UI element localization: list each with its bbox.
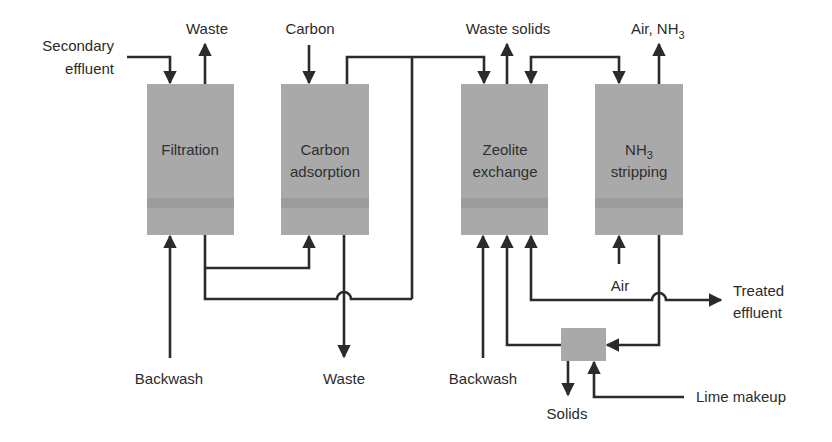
- treated-effluent-arrow: [600, 293, 721, 300]
- nh3-label-line2: stripping: [611, 163, 668, 180]
- air-in-label: Air: [611, 277, 629, 294]
- effluent-recycle-arrow: [531, 236, 600, 300]
- unit-filtration: Filtration: [147, 84, 234, 235]
- waste-solids-label: Waste solids: [466, 20, 550, 37]
- carbon-label-line2: adsorption: [290, 163, 360, 180]
- treated-effluent-label-line1: Treated: [733, 282, 784, 299]
- solids-label: Solids: [547, 405, 588, 422]
- lime-return-arrow: [507, 236, 561, 345]
- secondary-effluent-arrow: [127, 57, 170, 83]
- process-flow-diagram: Filtration Carbon adsorption Zeolite exc…: [0, 0, 832, 442]
- unit-carbon-adsorption: Carbon adsorption: [281, 84, 369, 235]
- treated-effluent-label-line2: effluent: [733, 304, 783, 321]
- carbon-to-zeolite-line: [347, 57, 484, 84]
- backwash-filtration-label: Backwash: [135, 370, 203, 387]
- unit-lime-recalcination: [561, 328, 606, 361]
- carbon-feed-label: Carbon: [285, 20, 334, 37]
- lime-makeup-label: Lime makeup: [696, 388, 786, 405]
- secondary-effluent-label-line2: effluent: [65, 60, 115, 77]
- filtration-to-carbon-arrow: [205, 236, 309, 268]
- filtration-label: Filtration: [161, 141, 219, 158]
- unit-zeolite-exchange: Zeolite exchange: [461, 84, 548, 235]
- secondary-effluent-label-line1: Secondary: [42, 37, 114, 54]
- zeolite-nh3-connector: [531, 57, 619, 83]
- unit-nh3-stripping: NH3 stripping: [595, 84, 683, 235]
- lime-makeup-arrow: [594, 362, 684, 397]
- air-nh3-label: Air, NH3: [631, 20, 685, 41]
- zeolite-label-line2: exchange: [472, 163, 537, 180]
- zeolite-label-line1: Zeolite: [482, 141, 527, 158]
- carbon-waste-label: Waste: [323, 370, 365, 387]
- filtration-waste-label: Waste: [186, 20, 228, 37]
- backwash-zeolite-label: Backwash: [449, 370, 517, 387]
- carbon-label-line1: Carbon: [300, 141, 349, 158]
